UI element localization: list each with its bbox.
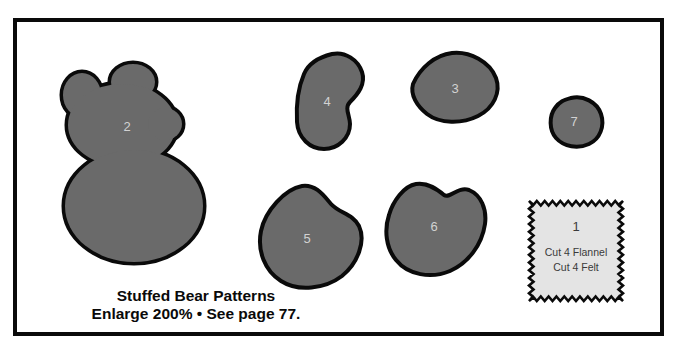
piece-label-4: 4 [323, 94, 330, 109]
pattern-piece-6: 6 [386, 184, 485, 275]
pattern-piece-2: 2 [63, 64, 203, 262]
piece-label-2: 2 [123, 119, 130, 134]
pattern-piece-5: 5 [260, 186, 362, 288]
piece-label-6: 6 [430, 219, 437, 234]
piece-label-1: 1 [572, 219, 579, 234]
caption-title: Stuffed Bear Patterns [40, 287, 352, 305]
caption-instructions: Enlarge 200% • See page 77. [40, 305, 352, 323]
swatch-cut-flannel: Cut 4 Flannel [545, 246, 607, 258]
piece-label-5: 5 [303, 231, 310, 246]
swatch-cut-felt: Cut 4 Felt [553, 261, 599, 273]
pattern-piece-7: 7 [551, 97, 603, 146]
pattern-piece-1: 1 Cut 4 Flannel Cut 4 Felt [529, 201, 623, 301]
pattern-piece-3: 3 [412, 53, 497, 122]
piece-label-7: 7 [570, 114, 577, 129]
caption: Stuffed Bear Patterns Enlarge 200% • See… [40, 287, 352, 323]
pattern-piece-4: 4 [297, 53, 363, 149]
piece-label-3: 3 [451, 81, 458, 96]
